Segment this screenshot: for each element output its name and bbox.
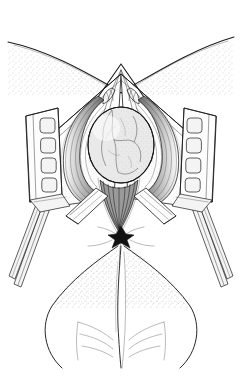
illustration-canvas (0, 0, 242, 383)
surgical-illustration: Posterior perineal surgical exposure (0, 0, 242, 383)
